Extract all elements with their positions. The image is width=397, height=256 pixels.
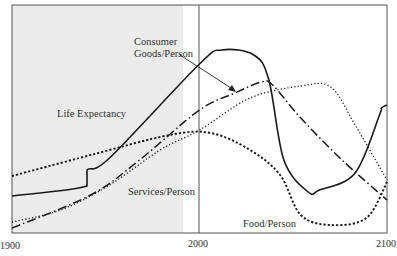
label-consumer-line2: Goods/Person [134,48,193,60]
annotation-arrow [180,55,234,90]
arrow-head-icon [228,85,236,92]
label-services: Services/Person [128,186,195,198]
label-life-expectancy: Life Expectancy [57,108,126,120]
chart-canvas [0,0,397,256]
x-tick-1900: 1900 [0,240,20,251]
label-food: Food/Person [243,218,296,230]
label-consumer-line1: Consumer [134,36,177,48]
x-tick-2000: 2000 [188,238,208,249]
x-tick-2100: 2100 [376,238,396,249]
